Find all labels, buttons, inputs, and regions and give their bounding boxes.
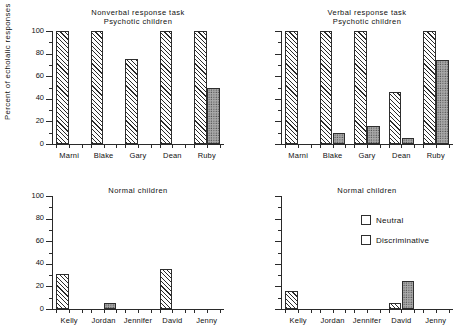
x-tick [449, 309, 450, 313]
y-tick [275, 286, 281, 287]
y-tick [278, 253, 282, 254]
x-tick [389, 309, 390, 313]
bar-neutral [285, 291, 298, 309]
bar-neutral [389, 303, 402, 309]
x-tick [414, 309, 415, 313]
legend-label: Neutral [376, 216, 404, 225]
legend-label: Discriminative [376, 236, 429, 245]
x-tick [285, 309, 286, 313]
x-tick [380, 309, 381, 313]
panel-title-verbal-normal: Normal children [281, 186, 453, 195]
x-tick-label: Kelly [281, 316, 315, 325]
y-tick [275, 309, 281, 310]
y-tick [275, 196, 281, 197]
x-tick [367, 309, 368, 313]
x-tick [436, 309, 437, 313]
panel-title-line2: Normal children [281, 186, 453, 195]
legend: NeutralDiscriminative [361, 214, 457, 248]
x-tick-label: Jennifer [350, 316, 384, 325]
y-axis-line [281, 196, 282, 309]
x-tick [333, 309, 334, 313]
x-tick-label: Jenny [419, 316, 453, 325]
x-tick [320, 309, 321, 313]
legend-item-neutral: Neutral [361, 214, 404, 226]
y-tick [275, 219, 281, 220]
plot-area-verbal-normal: KellyJordanJenniferDavidJenny [281, 196, 453, 309]
y-tick [278, 230, 282, 231]
y-tick [275, 241, 281, 242]
bar-discriminative [402, 281, 415, 309]
figure-root: Percent of echolalic responses Nonverbal… [0, 0, 459, 334]
legend-item-discriminative: Discriminative [361, 234, 429, 246]
x-tick [423, 309, 424, 313]
x-tick [311, 309, 312, 313]
x-tick-label: David [384, 316, 418, 325]
y-tick [275, 264, 281, 265]
y-tick [278, 298, 282, 299]
legend-swatch-discriminative-icon [361, 235, 371, 245]
y-tick [278, 275, 282, 276]
x-tick [401, 309, 402, 313]
x-tick-label: Jordan [315, 316, 349, 325]
x-tick [345, 309, 346, 313]
y-tick [278, 207, 282, 208]
x-tick [354, 309, 355, 313]
x-tick [298, 309, 299, 313]
panel-verbal-normal: Normal childrenKellyJordanJenniferDavidJ… [0, 0, 459, 334]
legend-swatch-neutral-icon [361, 215, 371, 225]
